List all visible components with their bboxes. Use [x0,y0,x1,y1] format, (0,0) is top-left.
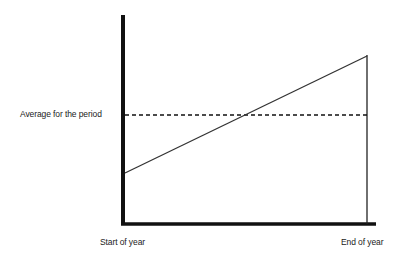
x-tick-start-of-year: Start of year [100,237,145,247]
chart-plot [0,0,399,262]
average-label: Average for the period [20,109,102,119]
x-tick-end-of-year: End of year [341,237,383,247]
